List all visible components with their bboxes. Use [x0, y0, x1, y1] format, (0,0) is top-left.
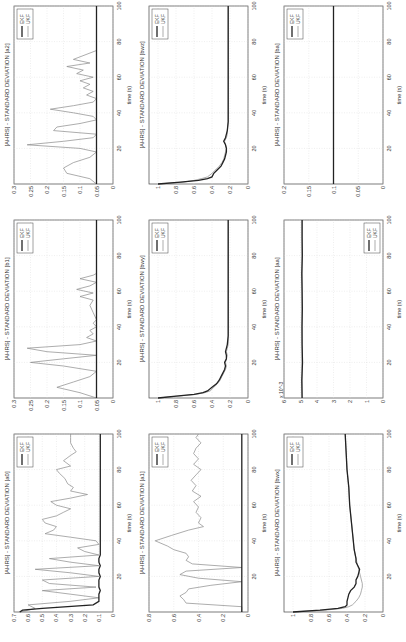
legend-entry: UKF — [25, 442, 31, 452]
legend: EKFUKF — [152, 223, 168, 253]
y-tick-label: 0 — [245, 186, 251, 189]
y-tick-label: 0.3 — [11, 186, 17, 194]
x-tick-label: 40 — [251, 538, 257, 544]
subplot-0-2: [AHRS] - STANDARD DEVIATION [a2]20406080… — [0, 0, 135, 214]
legend-entry: UKF — [160, 228, 166, 238]
y-tick-label: 0.8 — [173, 400, 179, 408]
y-tick-label: 0.25 — [28, 400, 34, 411]
x-tick-label: 100 — [251, 429, 257, 438]
subplot-title: [AHRS] - STANDARD DEVIATION [b1] — [4, 257, 10, 360]
y-tick-label: 0 — [110, 614, 116, 617]
y-tick-label: 1 — [364, 400, 370, 403]
y-tick-label: 0 — [380, 400, 386, 403]
subplot-title: [AHRS] - STANDARD DEVIATION [ba] — [274, 43, 280, 146]
y-tick-label: 0.15 — [306, 186, 312, 197]
x-tick-label: 20 — [386, 573, 392, 579]
legend: EKFUKF — [17, 9, 33, 39]
y-tick-label: 0.15 — [61, 400, 67, 411]
x-tick-label: 20 — [251, 573, 257, 579]
x-tick-label: 80 — [116, 39, 122, 45]
x-tick-label: 40 — [386, 538, 392, 544]
y-tick-label: 0.1 — [331, 186, 337, 194]
legend-entry: UKF — [295, 14, 301, 24]
x-axis-label: time (s) — [261, 514, 267, 533]
subplot-0-0: [AHRS] - STANDARD DEVIATION [a0]20406080… — [0, 428, 135, 642]
legend-entry: UKF — [372, 228, 378, 238]
x-tick-label: 100 — [386, 429, 392, 438]
legend-entry: UKF — [295, 442, 301, 452]
y-tick-label: 0.6 — [171, 614, 177, 622]
y-tick-label: 0 — [380, 614, 386, 617]
x-tick-label: 20 — [386, 145, 392, 151]
y-tick-label: 1 — [290, 614, 296, 617]
x-tick-label: 60 — [116, 74, 122, 80]
y-tick-label: 3 — [331, 400, 337, 403]
y-tick-label: 0.2 — [227, 400, 233, 408]
y-tick-label: 0.5 — [39, 614, 45, 622]
y-tick-label: 0.8 — [146, 614, 152, 622]
y-tick-label: 0.2 — [362, 614, 368, 622]
x-tick-label: 80 — [116, 253, 122, 259]
y-tick-label: 4 — [314, 400, 320, 403]
y-tick-label: 0.4 — [209, 186, 215, 194]
subplot-title: [AHRS] - STANDARD DEVIATION [a1] — [139, 471, 145, 574]
x-tick-label: 60 — [251, 288, 257, 294]
x-tick-label: 60 — [386, 74, 392, 80]
x-axis-label: time (s) — [126, 86, 132, 105]
y-tick-label: 0.8 — [308, 614, 314, 622]
legend: EKFUKF — [152, 9, 168, 39]
y-tick-label: 0.8 — [173, 186, 179, 194]
x-axis-label: time (s) — [126, 514, 132, 533]
y-tick-label: 0.6 — [191, 186, 197, 194]
x-tick-label: 60 — [386, 288, 392, 294]
y-tick-label: 0 — [245, 400, 251, 403]
y-tick-label: 0.1 — [77, 400, 83, 408]
y-tick-label: 0.6 — [326, 614, 332, 622]
subplot-1-0: [AHRS] - STANDARD DEVIATION [a1]20406080… — [135, 428, 270, 642]
subplot-title: [AHRS] - STANDARD DEVIATION [bwz] — [139, 41, 145, 148]
y-tick-label: 0.25 — [28, 186, 34, 197]
subplot-title: [AHRS] - STANDARD DEVIATION [a2] — [4, 43, 10, 146]
x-tick-label: 100 — [386, 215, 392, 224]
figure-rotated: [AHRS] - STANDARD DEVIATION [a0]20406080… — [0, 0, 406, 642]
x-axis-label: time (s) — [396, 86, 402, 105]
y-tick-label: 0.2 — [44, 400, 50, 408]
x-tick-label: 80 — [386, 39, 392, 45]
x-tick-label: 80 — [386, 467, 392, 473]
x-tick-label: 20 — [116, 145, 122, 151]
x-tick-label: 60 — [386, 502, 392, 508]
y-tick-label: 0.05 — [94, 186, 100, 197]
y-tick-label: 0.4 — [209, 400, 215, 408]
y-tick-label: 0.2 — [82, 614, 88, 622]
y-tick-label: 0 — [245, 614, 251, 617]
x-tick-label: 40 — [251, 110, 257, 116]
legend-entry: UKF — [25, 14, 31, 24]
x-tick-label: 20 — [386, 359, 392, 365]
x-axis-label: time (s) — [261, 86, 267, 105]
legend: EKFUKF — [364, 223, 380, 253]
y-tick-label: 0.3 — [11, 400, 17, 408]
y-tick-label: 0.4 — [53, 614, 59, 622]
x-axis-label: time (s) — [261, 300, 267, 319]
y-tick-label: 0.6 — [191, 400, 197, 408]
x-tick-label: 40 — [251, 324, 257, 330]
x-tick-label: 40 — [116, 324, 122, 330]
x-tick-label: 100 — [251, 1, 257, 10]
legend: EKFUKF — [287, 9, 303, 39]
x-axis-label: time (s) — [126, 300, 132, 319]
legend: EKFUKF — [17, 223, 33, 253]
x-tick-label: 100 — [116, 1, 122, 10]
y-tick-label: 2 — [347, 400, 353, 403]
x-tick-label: 20 — [116, 573, 122, 579]
subplot-title: [AHRS] - STANDARD DEVIATION [bwy] — [139, 255, 145, 362]
legend: EKFUKF — [17, 437, 33, 467]
x-tick-label: 60 — [251, 502, 257, 508]
y-tick-label: 0 — [110, 400, 116, 403]
y-tick-label: 0.4 — [196, 614, 202, 622]
x-tick-label: 20 — [251, 145, 257, 151]
x-tick-label: 60 — [116, 502, 122, 508]
y-tick-label: 1 — [155, 186, 161, 189]
y-tick-label: 0 — [110, 186, 116, 189]
y-tick-label: 0.1 — [77, 186, 83, 194]
y-tick-label: 0.2 — [281, 186, 287, 194]
